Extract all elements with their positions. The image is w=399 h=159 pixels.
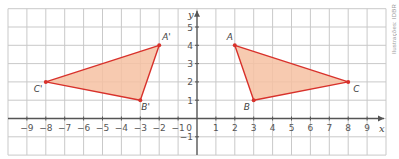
x-tick-label: 5 bbox=[289, 123, 295, 133]
x-tick-label: −5 bbox=[96, 123, 109, 133]
x-tick-label: 3 bbox=[251, 123, 257, 133]
x-tick-label: −8 bbox=[39, 123, 53, 133]
vertex-point bbox=[252, 98, 256, 102]
y-tick-label: 3 bbox=[187, 59, 193, 69]
x-tick-label: 2 bbox=[232, 123, 238, 133]
vertex-point bbox=[233, 43, 237, 47]
coordinate-plane: −9−8−7−6−5−4−3−2−112345678954321−10xy AB… bbox=[0, 0, 399, 159]
vertex-label: B bbox=[244, 102, 250, 112]
x-tick-label: 7 bbox=[326, 123, 332, 133]
x-tick-label: 1 bbox=[213, 123, 219, 133]
x-axis-arrow-icon bbox=[378, 116, 384, 122]
y-tick-label: 4 bbox=[187, 41, 193, 51]
x-tick-label: −9 bbox=[20, 123, 34, 133]
vertex-label: C bbox=[353, 84, 360, 94]
x-tick-label: −7 bbox=[58, 123, 71, 133]
x-axis-label: x bbox=[379, 123, 385, 134]
x-tick-label: −3 bbox=[134, 123, 147, 133]
x-tick-label: −6 bbox=[77, 123, 91, 133]
vertex-label: C' bbox=[34, 84, 43, 94]
x-tick-label: 8 bbox=[345, 123, 351, 133]
vertex-label: B' bbox=[141, 102, 150, 112]
y-tick-label: 2 bbox=[187, 77, 193, 87]
y-tick-label: 1 bbox=[187, 96, 193, 106]
watermark: Ilustrações: IDBR bbox=[391, 4, 397, 54]
y-axis-label: y bbox=[187, 9, 194, 20]
x-tick-label: 6 bbox=[308, 123, 314, 133]
vertex-point bbox=[157, 43, 161, 47]
x-tick-label: 9 bbox=[364, 123, 370, 133]
vertex-label: A' bbox=[161, 32, 171, 42]
x-tick-label: 4 bbox=[270, 123, 276, 133]
x-tick-label: −2 bbox=[153, 123, 166, 133]
x-tick-label: −1 bbox=[171, 123, 184, 133]
vertex-point bbox=[346, 80, 350, 84]
vertex-label: A bbox=[226, 32, 233, 42]
vertex-point bbox=[44, 80, 48, 84]
y-tick-label: −1 bbox=[180, 132, 193, 142]
y-tick-label: 5 bbox=[187, 23, 193, 33]
origin-label: 0 bbox=[186, 123, 192, 133]
y-axis-arrow-icon bbox=[194, 11, 200, 17]
x-tick-label: −4 bbox=[115, 123, 129, 133]
